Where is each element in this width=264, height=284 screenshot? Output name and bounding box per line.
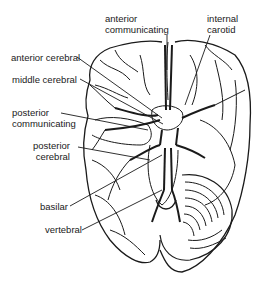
label-line-1: internal	[207, 13, 238, 24]
brain-artery-diagram: anterior communicating internal carotid …	[0, 0, 264, 284]
label-line-2: carotid	[207, 24, 238, 35]
label-middle-cerebral: middle cerebral	[12, 74, 77, 85]
label-posterior-communicating: posterior communicating	[12, 107, 76, 129]
label-anterior-communicating: anterior communicating	[105, 13, 169, 35]
label-line-1: anterior	[105, 13, 169, 24]
label-line-1: posterior	[12, 107, 76, 118]
label-line-2: cerebral	[33, 151, 70, 162]
label-line-1: posterior	[33, 140, 70, 151]
label-posterior-cerebral: posterior cerebral	[33, 140, 70, 162]
label-vertebral: vertebral	[45, 224, 82, 235]
label-line-2: communicating	[12, 118, 76, 129]
label-internal-carotid: internal carotid	[207, 13, 238, 35]
label-basilar: basilar	[40, 201, 68, 212]
label-anterior-cerebral: anterior cerebral	[11, 52, 80, 63]
label-line-2: communicating	[105, 24, 169, 35]
